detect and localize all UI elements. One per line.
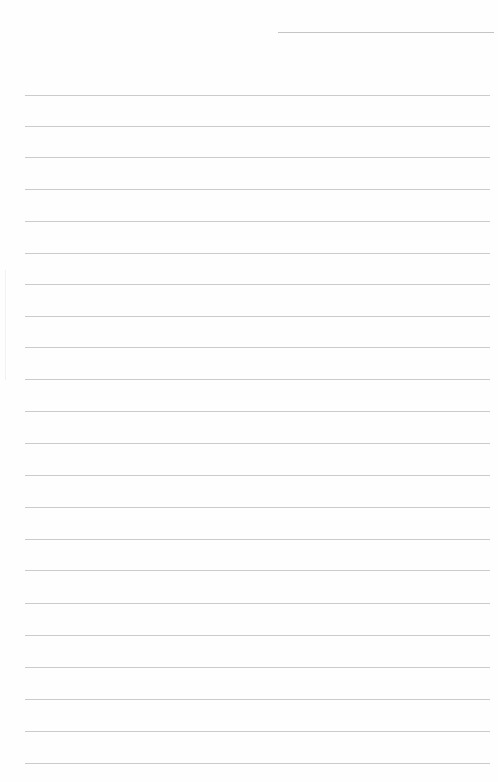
ruled-line — [25, 379, 490, 380]
ruled-line — [25, 539, 490, 540]
ruled-line — [25, 443, 490, 444]
ruled-line — [25, 507, 490, 508]
ruled-line — [25, 347, 490, 348]
header-date-line — [278, 32, 494, 33]
ruled-line — [25, 411, 490, 412]
ruled-line — [25, 316, 490, 317]
ruled-line — [25, 284, 490, 285]
ruled-line — [25, 253, 490, 254]
ruled-line — [25, 763, 490, 764]
ruled-line — [25, 221, 490, 222]
ruled-line — [25, 635, 490, 636]
ruled-line — [25, 570, 490, 571]
ruled-line — [25, 667, 490, 668]
ruled-page — [0, 0, 498, 782]
ruled-line — [25, 126, 490, 127]
ruled-line — [25, 475, 490, 476]
ruled-line — [25, 731, 490, 732]
ruled-line — [25, 157, 490, 158]
ruled-line — [25, 699, 490, 700]
ruled-line — [25, 95, 490, 96]
ruled-line — [25, 189, 490, 190]
page-edge-mark — [5, 270, 6, 380]
ruled-line — [25, 603, 490, 604]
